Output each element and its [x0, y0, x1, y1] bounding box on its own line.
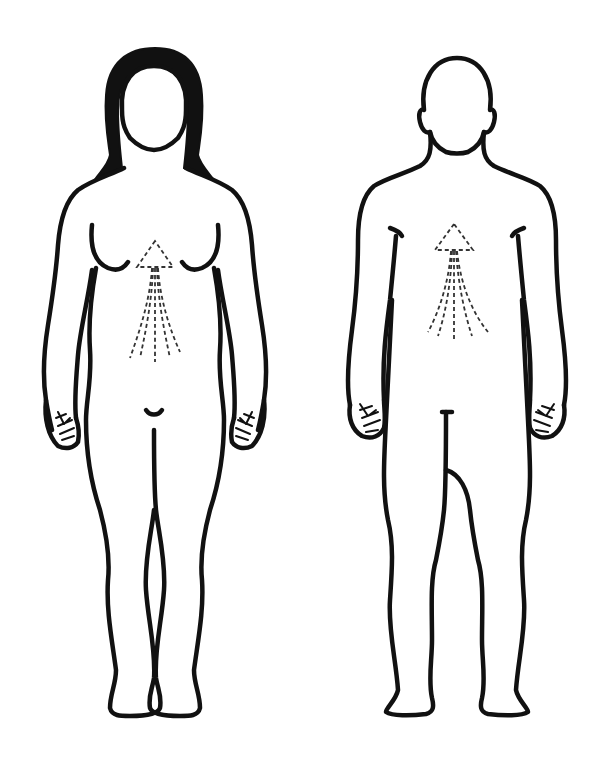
female-body-left: [44, 168, 124, 430]
illustration-canvas: [0, 0, 593, 767]
body-figures-svg: [0, 0, 593, 767]
male-hand-right: [529, 400, 564, 438]
female-figure: [44, 48, 266, 716]
male-figure: [348, 58, 566, 715]
female-face: [122, 66, 186, 150]
female-breast-right: [182, 225, 218, 270]
male-leg-left: [384, 300, 446, 715]
male-leg-right: [446, 300, 530, 715]
female-breast-left: [92, 225, 128, 270]
female-arrow-icon: [130, 241, 180, 362]
female-body-right: [186, 168, 266, 430]
male-arrow-icon: [428, 224, 488, 342]
female-groin: [146, 410, 162, 415]
male-hand-left: [350, 400, 385, 438]
